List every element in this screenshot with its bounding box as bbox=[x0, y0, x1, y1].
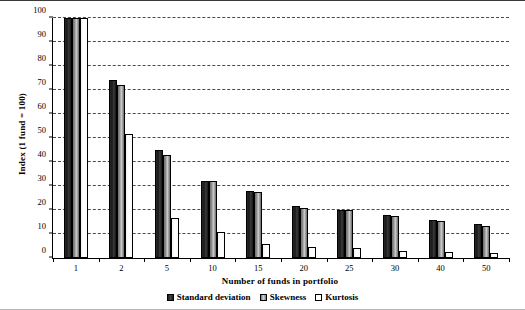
bar-group: 5 bbox=[144, 18, 190, 258]
bar-group: 30 bbox=[372, 18, 418, 258]
legend-item[interactable]: Skewness bbox=[260, 292, 307, 302]
bar[interactable] bbox=[80, 18, 88, 258]
y-tick-label: 40 bbox=[38, 149, 47, 158]
x-tick-label: 25 bbox=[345, 264, 354, 273]
x-tick-label: 20 bbox=[300, 264, 309, 273]
bar[interactable] bbox=[109, 80, 117, 258]
x-tick-mark bbox=[235, 258, 236, 262]
y-tick-label: 50 bbox=[38, 125, 47, 134]
bar-groups: 12510152025304050 bbox=[53, 18, 509, 258]
bar[interactable] bbox=[171, 218, 179, 258]
bar[interactable] bbox=[125, 134, 133, 258]
x-tick-mark bbox=[509, 258, 510, 262]
bar-group: 20 bbox=[281, 18, 327, 258]
bar[interactable] bbox=[246, 191, 254, 258]
bar[interactable] bbox=[345, 210, 353, 258]
x-tick-mark bbox=[463, 258, 464, 262]
x-tick-label: 40 bbox=[436, 264, 445, 273]
x-tick-label: 5 bbox=[165, 264, 169, 273]
y-tick-label: 0 bbox=[42, 245, 46, 254]
x-tick-label: 1 bbox=[74, 264, 78, 273]
plot-area: 0102030405060708090100 12510152025304050 bbox=[52, 18, 509, 259]
y-tick-label: 30 bbox=[38, 173, 47, 182]
x-axis-title: Number of funds in portfolio bbox=[52, 276, 508, 286]
bar[interactable] bbox=[292, 206, 300, 258]
x-tick-label: 10 bbox=[208, 264, 217, 273]
x-tick-mark bbox=[418, 258, 419, 262]
y-tick-label: 90 bbox=[38, 29, 47, 38]
x-tick-mark bbox=[99, 258, 100, 262]
x-tick-mark bbox=[53, 258, 54, 262]
bar[interactable] bbox=[437, 221, 445, 258]
x-tick-mark bbox=[144, 258, 145, 262]
bar-group: 1 bbox=[53, 18, 99, 258]
legend-item[interactable]: Kurtosis bbox=[315, 292, 358, 302]
bar[interactable] bbox=[337, 210, 345, 258]
y-tick-label: 20 bbox=[38, 197, 47, 206]
bar[interactable] bbox=[391, 216, 399, 258]
x-tick-mark bbox=[372, 258, 373, 262]
x-tick-mark bbox=[327, 258, 328, 262]
chart-legend: Standard deviationSkewnessKurtosis bbox=[0, 292, 525, 302]
bar[interactable] bbox=[353, 248, 361, 258]
bar-group: 10 bbox=[190, 18, 236, 258]
bar[interactable] bbox=[117, 85, 125, 258]
bar[interactable] bbox=[429, 220, 437, 258]
y-tick-label: 60 bbox=[38, 101, 47, 110]
x-tick-label: 30 bbox=[391, 264, 400, 273]
legend-item[interactable]: Standard deviation bbox=[167, 292, 251, 302]
bar[interactable] bbox=[474, 224, 482, 258]
bar[interactable] bbox=[254, 192, 262, 258]
legend-swatch-icon bbox=[167, 294, 174, 301]
bar[interactable] bbox=[490, 253, 498, 258]
bar[interactable] bbox=[308, 247, 316, 258]
bar[interactable] bbox=[209, 181, 217, 258]
chart-figure: Index (1 fund = 100) 0102030405060708090… bbox=[0, 0, 525, 310]
x-tick-label: 2 bbox=[119, 264, 123, 273]
y-axis-title: Index (1 fund = 100) bbox=[17, 34, 27, 234]
x-tick-label: 50 bbox=[482, 264, 491, 273]
bar[interactable] bbox=[399, 251, 407, 258]
x-tick-mark bbox=[190, 258, 191, 262]
x-tick-mark bbox=[281, 258, 282, 262]
bar[interactable] bbox=[201, 181, 209, 258]
y-tick-label: 100 bbox=[33, 5, 46, 14]
bar[interactable] bbox=[300, 208, 308, 258]
x-tick-label: 15 bbox=[254, 264, 263, 273]
bar[interactable] bbox=[383, 215, 391, 258]
bar[interactable] bbox=[482, 226, 490, 258]
bar[interactable] bbox=[445, 252, 453, 258]
bar-group: 25 bbox=[327, 18, 373, 258]
legend-label: Kurtosis bbox=[325, 292, 358, 302]
bar[interactable] bbox=[262, 244, 270, 258]
bar[interactable] bbox=[217, 232, 225, 258]
bar-group: 50 bbox=[463, 18, 509, 258]
bar-group: 15 bbox=[235, 18, 281, 258]
bar[interactable] bbox=[155, 150, 163, 258]
legend-swatch-icon bbox=[260, 294, 267, 301]
y-tick-label: 70 bbox=[38, 77, 47, 86]
bar[interactable] bbox=[72, 18, 80, 258]
y-tick-label: 10 bbox=[38, 221, 47, 230]
bar[interactable] bbox=[64, 18, 72, 258]
bar[interactable] bbox=[163, 155, 171, 258]
bar-group: 2 bbox=[99, 18, 145, 258]
legend-label: Skewness bbox=[270, 292, 307, 302]
bar-group: 40 bbox=[418, 18, 464, 258]
legend-label: Standard deviation bbox=[177, 292, 251, 302]
legend-swatch-icon bbox=[315, 294, 322, 301]
y-tick-label: 80 bbox=[38, 53, 47, 62]
